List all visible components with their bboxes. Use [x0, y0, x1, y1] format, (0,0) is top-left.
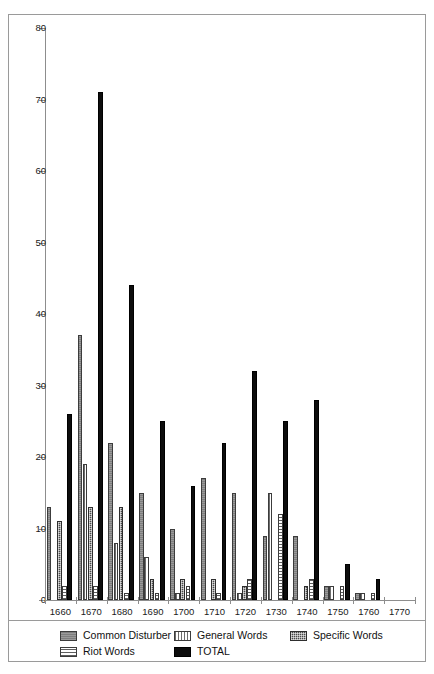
bar [263, 536, 268, 600]
bar [124, 593, 129, 600]
bar [329, 586, 334, 600]
bar [376, 579, 381, 600]
bar [371, 593, 376, 600]
bar [47, 507, 52, 600]
legend-swatch [290, 631, 307, 641]
legend-item-general-words[interactable]: General Words [174, 628, 267, 643]
legend-divider [8, 620, 426, 621]
bar [93, 586, 98, 600]
bar [268, 493, 273, 600]
chart-figure: 01020304050607080 1660167016801690170017… [0, 0, 434, 674]
bar [144, 557, 149, 600]
bar [201, 478, 206, 600]
bar [119, 507, 124, 600]
bar [252, 371, 257, 600]
legend-label: Common Disturber [83, 630, 171, 641]
bar [175, 593, 180, 600]
legend-item-total[interactable]: TOTAL [174, 644, 230, 659]
bar [211, 579, 216, 600]
legend-label: Riot Words [83, 646, 135, 657]
bar [283, 421, 288, 600]
legend-label: Specific Words [313, 630, 383, 641]
bar [83, 464, 88, 600]
bar [232, 493, 237, 600]
bar [355, 593, 360, 600]
bar [57, 521, 62, 600]
chart-legend: Common DisturberGeneral WordsSpecific Wo… [8, 624, 426, 662]
bar [186, 586, 191, 600]
bars-layer [0, 0, 434, 674]
bar [222, 443, 227, 600]
legend-row: Riot WordsTOTAL [8, 644, 426, 659]
bar [191, 486, 196, 600]
bar [108, 443, 113, 600]
bar [180, 579, 185, 600]
legend-item-specific-words[interactable]: Specific Words [290, 628, 383, 643]
legend-item-common-disturber[interactable]: Common Disturber [60, 628, 171, 643]
legend-swatch [60, 631, 77, 641]
bar [170, 529, 175, 601]
bar [155, 593, 160, 600]
bar [304, 586, 309, 600]
bar [324, 586, 329, 600]
bar [114, 543, 119, 600]
legend-row: Common DisturberGeneral WordsSpecific Wo… [8, 628, 426, 643]
bar [340, 586, 345, 600]
legend-swatch [60, 647, 77, 657]
bar [160, 421, 165, 600]
bar [139, 493, 144, 600]
bar [278, 514, 283, 600]
bar [88, 507, 93, 600]
bar [67, 414, 72, 600]
bar [314, 400, 319, 600]
legend-label: General Words [197, 630, 267, 641]
bar [247, 579, 252, 600]
bar [78, 335, 83, 600]
bar [293, 536, 298, 600]
bar [360, 593, 365, 600]
bar [150, 579, 155, 600]
bar [237, 593, 242, 600]
bar [345, 564, 350, 600]
legend-swatch [174, 647, 191, 657]
bar [216, 593, 221, 600]
bar [309, 579, 314, 600]
legend-label: TOTAL [197, 646, 230, 657]
bar [98, 92, 103, 600]
bar [242, 586, 247, 600]
plot-area: 01020304050607080 1660167016801690170017… [0, 0, 434, 674]
bar [129, 285, 134, 600]
legend-swatch [174, 631, 191, 641]
bar [62, 586, 67, 600]
legend-item-riot-words[interactable]: Riot Words [60, 644, 135, 659]
